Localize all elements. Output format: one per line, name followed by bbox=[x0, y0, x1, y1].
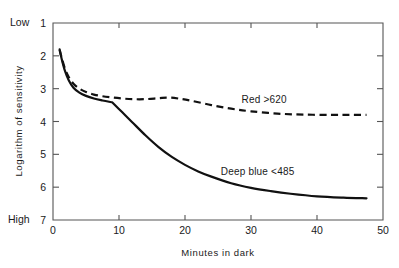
x-axis-ticks bbox=[119, 215, 317, 220]
y-axis-ticks bbox=[53, 56, 59, 187]
x-axis-ticks-top bbox=[119, 23, 317, 28]
x-axis-tick-labels: 01020304050 bbox=[50, 224, 389, 236]
series-label-red: Red >620 bbox=[242, 94, 287, 105]
series-line-red bbox=[60, 50, 367, 115]
x-tick-label: 0 bbox=[50, 224, 56, 236]
x-tick-label: 50 bbox=[377, 224, 389, 236]
y-axis-ticks-right bbox=[377, 56, 383, 187]
y-tick-label: 5 bbox=[40, 148, 46, 160]
y-tick-label: 4 bbox=[40, 116, 46, 128]
x-tick-label: 10 bbox=[113, 224, 125, 236]
data-series-group bbox=[60, 49, 367, 198]
x-tick-label: 30 bbox=[245, 224, 257, 236]
y-axis-title: Logarithm of sensitivity bbox=[13, 65, 24, 176]
y-tick-label: 6 bbox=[40, 181, 46, 193]
dark-adaptation-chart: 01020304050 1234567 Red >620 Deep blue <… bbox=[0, 0, 399, 268]
chart-figure: 01020304050 1234567 Red >620 Deep blue <… bbox=[0, 0, 399, 268]
y-axis-top-label: Low bbox=[10, 16, 30, 28]
plot-frame bbox=[53, 23, 383, 220]
x-axis-title: Minutes in dark bbox=[181, 247, 254, 258]
y-tick-label: 2 bbox=[40, 50, 46, 62]
y-axis-bottom-label: High bbox=[8, 213, 30, 225]
series-line-deep-blue bbox=[60, 49, 367, 198]
y-axis-tick-labels: 1234567 bbox=[40, 17, 46, 226]
x-tick-label: 40 bbox=[311, 224, 323, 236]
series-label-deep-blue: Deep blue <485 bbox=[221, 166, 295, 177]
y-tick-label: 7 bbox=[40, 214, 46, 226]
x-tick-label: 20 bbox=[179, 224, 191, 236]
y-tick-label: 3 bbox=[40, 83, 46, 95]
y-tick-label: 1 bbox=[40, 17, 46, 29]
